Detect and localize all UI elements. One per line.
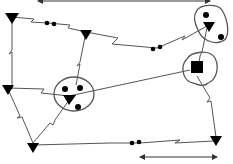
cluster-dot xyxy=(77,85,83,91)
network-diagram xyxy=(0,0,233,164)
node-triangle-t1[interactable] xyxy=(5,13,19,24)
cluster-dot xyxy=(75,104,81,110)
link-t4-t5 xyxy=(8,88,69,96)
node-triangle-t4[interactable] xyxy=(2,85,14,95)
cluster-dot xyxy=(218,34,224,40)
link-t1-t4 xyxy=(9,17,12,89)
link-t6-t7 xyxy=(33,140,214,145)
cluster-dot xyxy=(62,86,68,92)
link-t2-t3 xyxy=(86,26,207,48)
node-square-s1[interactable] xyxy=(191,61,203,73)
node-triangle-t6[interactable] xyxy=(27,143,39,153)
cluster-dot xyxy=(203,12,209,18)
cluster-middle xyxy=(54,77,94,111)
link-t1-t2 xyxy=(12,17,86,32)
node-triangle-t5[interactable] xyxy=(63,95,76,105)
node-triangle-t2[interactable] xyxy=(80,30,92,40)
link-t4-t6 xyxy=(8,89,33,143)
link-t5-t6 xyxy=(33,100,69,143)
link-t5-s1 xyxy=(69,70,190,96)
